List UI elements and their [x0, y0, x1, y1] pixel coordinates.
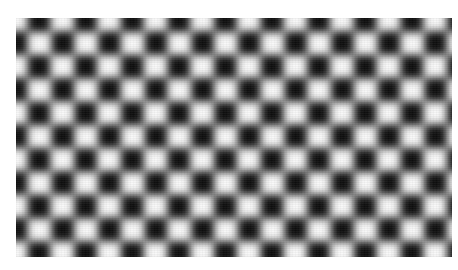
- blurred-checkerboard-pattern: [16, 18, 452, 257]
- checkerboard-photo: Grayscale photo of a low-pass filtered (…: [16, 18, 452, 257]
